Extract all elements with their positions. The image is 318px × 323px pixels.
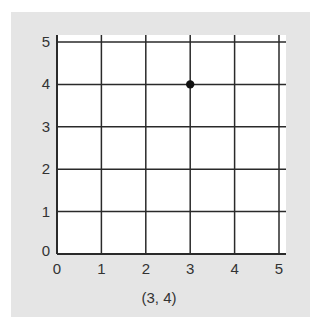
x-tick-label: 2: [142, 260, 150, 277]
x-tick-label: 0: [53, 260, 61, 277]
coordinate-grid-chart: 012345 012345: [0, 0, 318, 323]
x-tick-label: 3: [186, 260, 194, 277]
x-tick-label: 5: [275, 260, 283, 277]
data-point: [186, 80, 194, 88]
y-tick-label: 4: [42, 75, 50, 92]
x-tick-label: 1: [97, 260, 105, 277]
y-tick-label: 2: [42, 160, 50, 177]
x-tick-label: 4: [230, 260, 238, 277]
point-caption: (3, 4): [0, 289, 318, 306]
y-axis-ticks: 012345: [42, 33, 50, 259]
x-axis-ticks: 012345: [53, 260, 283, 277]
y-tick-label: 1: [42, 203, 50, 220]
data-points: [186, 80, 194, 88]
y-tick-label: 3: [42, 118, 50, 135]
y-tick-label: 5: [42, 33, 50, 50]
y-tick-label: 0: [42, 242, 50, 259]
plot-area: [57, 35, 286, 254]
